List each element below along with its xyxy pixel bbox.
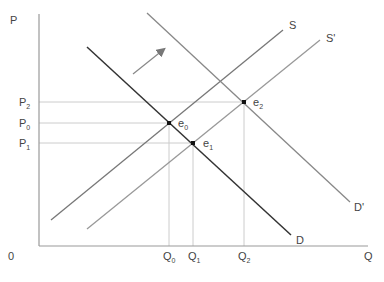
price-label-p1: P1 bbox=[19, 137, 30, 151]
price-label-p2: P2 bbox=[19, 96, 30, 110]
equilibrium-label-e0: e0 bbox=[178, 117, 188, 131]
quantity-label-q0: Q0 bbox=[163, 250, 176, 264]
y-axis-label: P bbox=[10, 14, 17, 26]
point-e1 bbox=[191, 141, 195, 145]
supply-curve-s-prime bbox=[87, 40, 320, 229]
curve-label-d-prime: D' bbox=[354, 201, 364, 213]
quantity-label-q2: Q2 bbox=[238, 250, 251, 264]
demand-curve-d-prime bbox=[147, 13, 350, 202]
equilibrium-label-e2: e2 bbox=[253, 96, 263, 110]
price-label-p0: P0 bbox=[19, 117, 30, 131]
shift-arrow-icon bbox=[133, 50, 163, 74]
curve-label-d: D bbox=[296, 234, 304, 246]
guide-lines bbox=[39, 102, 244, 246]
supply-demand-diagram: P Q 0 P2 P0 P1 Q0 Q1 Q2 S S' D D' e0 e1 … bbox=[0, 0, 384, 282]
quantity-label-q1: Q1 bbox=[188, 250, 201, 264]
point-e0 bbox=[167, 121, 171, 125]
origin-label: 0 bbox=[8, 250, 14, 262]
curve-label-s-prime: S' bbox=[326, 32, 335, 44]
point-e2 bbox=[242, 100, 246, 104]
curve-label-s: S bbox=[289, 19, 296, 31]
equilibrium-label-e1: e1 bbox=[203, 137, 213, 151]
demand-curve-d bbox=[87, 47, 291, 235]
x-axis-label: Q bbox=[364, 250, 373, 262]
